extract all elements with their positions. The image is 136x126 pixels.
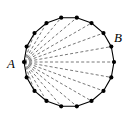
diagonal-line	[24, 33, 103, 62]
vertex-dot-0	[22, 60, 26, 64]
geometry-figure: A B	[0, 0, 136, 126]
vertex-dot-12	[89, 21, 93, 25]
vertex-dot-5	[75, 104, 79, 108]
vertex-dot-7	[101, 89, 105, 93]
diagonal-line	[24, 62, 61, 106]
diagonal-line	[24, 62, 92, 101]
diagonal-line	[24, 62, 111, 77]
diagonal-line	[24, 23, 92, 62]
polygon-diagram-svg	[0, 0, 136, 126]
diagonal-line	[24, 23, 47, 62]
vertex-dot-2	[32, 89, 36, 93]
vertex-dot-9	[112, 60, 116, 64]
vertex-dot-8	[109, 75, 113, 79]
vertex-dot-10	[109, 45, 113, 49]
vertex-dot-14	[59, 16, 63, 20]
vertex-dot-13	[75, 16, 79, 20]
vertex-dot-3	[44, 99, 48, 103]
vertex-dot-6	[89, 99, 93, 103]
polygon-outline	[24, 18, 114, 107]
vertex-dot-4	[59, 104, 63, 108]
vertex-label-b: B	[114, 31, 122, 44]
vertex-dot-16	[32, 31, 36, 35]
vertex-label-a: A	[7, 57, 15, 70]
diagonal-line	[24, 47, 111, 62]
vertex-dot-11	[101, 31, 105, 35]
vertex-dot-17	[25, 45, 29, 49]
diagonal-line	[24, 62, 103, 91]
diagonal-line	[24, 18, 61, 62]
diagonal-line	[24, 62, 47, 101]
vertex-dot-15	[44, 21, 48, 25]
vertex-dot-1	[25, 75, 29, 79]
